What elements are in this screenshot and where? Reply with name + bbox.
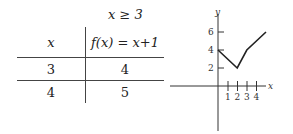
x-tick-1: 1 bbox=[225, 92, 231, 102]
x-tick-4: 4 bbox=[254, 92, 260, 102]
x-tick-3: 3 bbox=[244, 92, 250, 102]
line-graph: 1 2 3 4 2 4 6 x y bbox=[0, 0, 293, 134]
x-tick-2: 2 bbox=[235, 92, 241, 102]
y-axis-label: y bbox=[214, 7, 221, 17]
y-tick-4: 4 bbox=[208, 45, 214, 55]
data-line bbox=[218, 32, 266, 68]
y-tick-2: 2 bbox=[208, 63, 214, 73]
x-axis-label: x bbox=[268, 81, 273, 91]
y-tick-6: 6 bbox=[208, 27, 214, 37]
